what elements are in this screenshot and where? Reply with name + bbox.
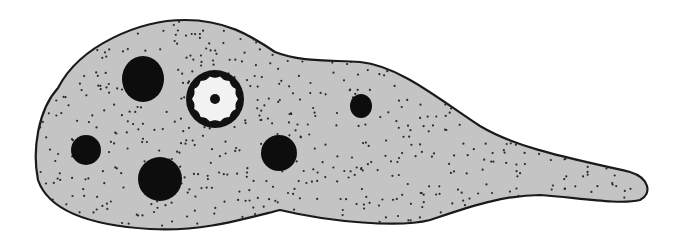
granule (187, 82, 189, 84)
granule (307, 123, 309, 125)
granule (298, 180, 300, 182)
granule (179, 166, 181, 168)
granule (108, 48, 110, 50)
granule (192, 139, 194, 141)
food-vacuole (71, 135, 101, 165)
granule (178, 21, 180, 23)
granule (255, 64, 257, 66)
granule (467, 154, 469, 156)
granule (108, 151, 110, 153)
granule (185, 35, 187, 37)
granule (254, 213, 256, 215)
granule (394, 85, 396, 87)
granule (614, 174, 616, 176)
granule (212, 59, 214, 61)
granule (574, 185, 576, 187)
granule (362, 169, 364, 171)
granule (482, 169, 484, 171)
granule (519, 172, 521, 174)
granule (356, 166, 358, 168)
granule (187, 192, 189, 194)
granule (223, 30, 225, 32)
granule (468, 198, 470, 200)
granule (254, 75, 256, 77)
granule (164, 204, 166, 206)
granule (398, 100, 400, 102)
granule (257, 197, 259, 199)
granule (103, 182, 105, 184)
granule (55, 99, 57, 101)
granule (122, 186, 124, 188)
granule (132, 123, 134, 125)
granule (237, 199, 239, 201)
granule (88, 121, 90, 123)
granule (550, 159, 552, 161)
granule (342, 214, 344, 216)
granule (524, 163, 526, 165)
granule (271, 54, 273, 56)
granule (236, 173, 238, 175)
granule (79, 211, 81, 213)
granule (162, 128, 164, 130)
granule (176, 43, 178, 45)
granule (552, 184, 554, 186)
granule (278, 83, 280, 85)
granule (211, 187, 213, 189)
granule (213, 64, 215, 66)
granule (365, 142, 367, 144)
granule (516, 170, 518, 172)
granule (348, 176, 350, 178)
granule (322, 161, 324, 163)
granule (343, 79, 345, 81)
granule (182, 82, 184, 84)
granule (407, 219, 409, 221)
granule (377, 169, 379, 171)
granule (378, 204, 380, 206)
granule (340, 198, 342, 200)
granule (288, 85, 290, 87)
granule (45, 182, 47, 184)
granule (207, 175, 209, 177)
granule (590, 191, 592, 193)
granule (141, 214, 143, 216)
granule (587, 174, 589, 176)
granule (224, 141, 226, 143)
granule (206, 187, 208, 189)
granule (346, 63, 348, 65)
granule (379, 116, 381, 118)
granule (303, 170, 305, 172)
granule (419, 143, 421, 145)
granule (309, 82, 311, 84)
granule (288, 121, 290, 123)
granule (238, 149, 240, 151)
granule (233, 126, 235, 128)
granule (312, 107, 314, 109)
granule (259, 119, 261, 121)
granule (193, 173, 195, 175)
granule (369, 202, 371, 204)
granule (57, 153, 59, 155)
granule (357, 74, 359, 76)
granule (101, 57, 103, 59)
granule (277, 68, 279, 70)
granule (211, 148, 213, 150)
granule (175, 34, 177, 36)
granule (299, 197, 301, 199)
granule (415, 155, 417, 157)
granule (410, 203, 412, 205)
granule (398, 157, 400, 159)
granule (40, 171, 42, 173)
granule (287, 60, 289, 62)
granule (105, 72, 107, 74)
granule (379, 221, 381, 223)
granule (210, 49, 212, 51)
granule (189, 55, 191, 57)
granule (81, 89, 83, 91)
food-vacuole (261, 135, 297, 171)
granule (287, 192, 289, 194)
granule (611, 182, 613, 184)
granule (401, 106, 403, 108)
granule (428, 130, 430, 132)
granule (410, 144, 412, 146)
granule (191, 70, 193, 72)
